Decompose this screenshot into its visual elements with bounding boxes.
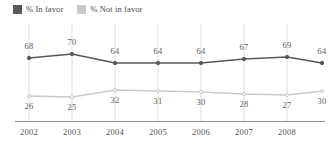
data-point-marker [286, 94, 289, 97]
data-point-label: 28 [240, 100, 249, 109]
x-axis-tick-label: 2008 [278, 127, 296, 137]
data-point-marker [199, 61, 202, 64]
data-point-marker [200, 91, 203, 94]
legend-item-not-in-favor: % Not in favor [77, 5, 142, 14]
data-point-label: 68 [25, 42, 34, 51]
data-point-marker [113, 61, 116, 64]
data-point-label: 32 [111, 96, 120, 105]
data-point-label: 64 [318, 47, 327, 56]
x-axis-tick-label: 2007 [235, 127, 253, 137]
data-point-label: 64 [197, 47, 206, 56]
data-point-marker [242, 57, 245, 60]
data-point-marker [71, 96, 74, 99]
data-point-marker [321, 90, 324, 93]
x-axis-tick-label: 2005 [149, 127, 167, 137]
data-point-marker [320, 61, 323, 64]
plot-area: 68706464646769642625323130282730 [0, 24, 336, 122]
data-point-marker [70, 52, 73, 55]
data-point-label: 26 [25, 102, 34, 111]
x-axis-tick-label: 2002 [20, 127, 38, 137]
legend-item-in-favor: % In favor [13, 5, 63, 14]
data-point-marker [157, 90, 160, 93]
data-point-marker [28, 95, 31, 98]
x-axis-tick-label: 2003 [63, 127, 81, 137]
data-point-marker [27, 56, 30, 59]
line-chart: % In favor % Not in favor 68706464646769… [0, 0, 336, 145]
data-point-label: 70 [68, 38, 77, 47]
data-point-label: 69 [283, 41, 292, 50]
data-point-label: 27 [283, 101, 292, 110]
data-point-marker [285, 55, 288, 58]
data-point-label: 25 [68, 103, 77, 112]
series-lines [29, 54, 322, 97]
data-point-label: 67 [240, 43, 249, 52]
x-axis-line [15, 121, 325, 122]
x-axis-tick-label: 2006 [192, 127, 210, 137]
data-point-label: 64 [154, 47, 163, 56]
data-point-marker [114, 89, 117, 92]
legend-label-in-favor: % In favor [26, 5, 63, 14]
data-point-marker [156, 61, 159, 64]
x-axis-labels: 2002200320042005200620072008 [0, 127, 336, 141]
x-axis-tick-label: 2004 [106, 127, 124, 137]
legend-label-not-in-favor: % Not in favor [90, 5, 142, 14]
chart-legend: % In favor % Not in favor [13, 3, 143, 16]
data-point-marker [243, 93, 246, 96]
square-swatch-icon [13, 5, 22, 14]
data-point-label: 31 [154, 97, 163, 106]
square-swatch-icon [77, 5, 86, 14]
data-point-label: 64 [111, 47, 120, 56]
data-point-label: 30 [197, 98, 206, 107]
data-point-label: 30 [318, 97, 327, 106]
